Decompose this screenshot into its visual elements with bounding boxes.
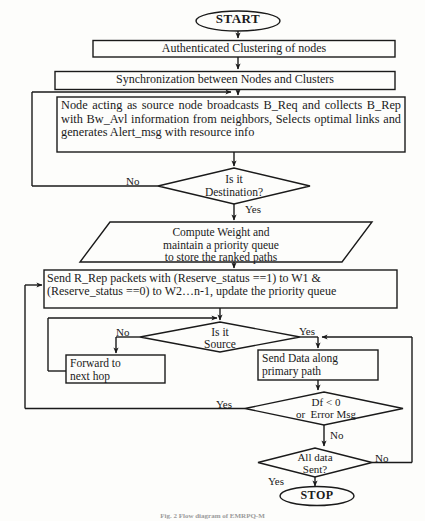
edge-label-source-yes: Yes	[299, 325, 315, 337]
edge-label-destination-no: No	[126, 175, 139, 187]
edge-label-df-no: No	[330, 429, 343, 441]
send-rrep-box-label: Send R_Rep packets with (Reserve_status …	[47, 272, 395, 297]
flowchart-figure: START Authenticated Clustering of nodes …	[0, 0, 425, 521]
edge-label-allsent-no: No	[375, 452, 388, 464]
edge-label-df-yes: Yes	[216, 398, 232, 410]
start-terminator-label: START	[196, 12, 280, 27]
df-error-label: Df < 0 or Error Msg	[276, 396, 376, 420]
is-source-label: Is it Source	[178, 326, 262, 350]
all-sent-label: All data Sent?	[275, 451, 355, 475]
broadcast-box-label: Node acting as source node broadcasts B_…	[61, 99, 401, 140]
sync-box-label: Synchronization between Nodes and Cluste…	[57, 73, 393, 86]
compute-weight-label: Compute Weight and maintain a priority q…	[111, 226, 331, 264]
edge-label-source-no: No	[116, 326, 129, 338]
send-data-label: Send Data along primary path	[262, 352, 378, 377]
is-destination-label: Is it Destination?	[176, 173, 292, 199]
edge-label-allsent-yes: Yes	[268, 475, 284, 487]
auth-box-label: Authenticated Clustering of nodes	[95, 42, 393, 55]
forward-hop-label: Forward to next hop	[70, 357, 165, 382]
figure-caption: Fig. 2 Flow diagram of EMRPQ-M	[0, 512, 425, 520]
edge-label-destination-yes: Yes	[245, 203, 261, 215]
stop-terminator-label: STOP	[280, 489, 354, 502]
